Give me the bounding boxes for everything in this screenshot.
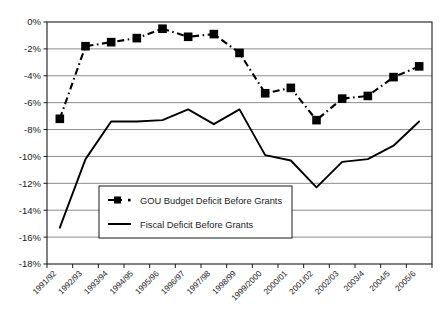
- data-point-marker: [107, 38, 116, 47]
- legend-label-fiscal-deficit: Fiscal Deficit Before Grants: [140, 220, 253, 230]
- y-axis-tick-label: -4%: [24, 70, 41, 81]
- y-axis-tick-label: -18%: [19, 258, 42, 269]
- dashed-square-marker-dot: [128, 199, 131, 202]
- y-axis-tick-label: -16%: [19, 232, 42, 243]
- y-axis-tick-label: -10%: [19, 151, 42, 162]
- data-point-marker: [389, 73, 398, 82]
- data-point-marker: [56, 115, 65, 124]
- legend-background: [99, 186, 292, 238]
- chart-figure: 0%-2%-4%-6%-8%-10%-12%-14%-16%-18% 1991/…: [0, 0, 446, 317]
- data-point-marker: [133, 34, 142, 43]
- chart-legend: GOU Budget Deficit Before Grants Fiscal …: [99, 186, 292, 238]
- data-point-marker: [184, 32, 193, 41]
- data-point-marker: [338, 94, 347, 103]
- data-point-marker: [158, 24, 167, 33]
- y-axis-tick-label: -2%: [24, 43, 41, 54]
- data-point-marker: [235, 49, 244, 58]
- dashed-square-marker-square: [114, 197, 121, 204]
- y-axis-tick-label: 0%: [27, 16, 41, 27]
- y-axis-tick-label: -6%: [24, 97, 41, 108]
- y-axis-tick-label: -14%: [19, 205, 42, 216]
- y-axis-tick-label: -8%: [24, 124, 41, 135]
- data-point-marker: [261, 89, 270, 98]
- data-point-marker: [210, 30, 219, 39]
- data-point-marker: [364, 92, 373, 101]
- y-axis-tick-label: -12%: [19, 178, 42, 189]
- data-point-marker: [415, 62, 424, 71]
- line-chart: 0%-2%-4%-6%-8%-10%-12%-14%-16%-18% 1991/…: [0, 0, 446, 317]
- data-point-marker: [287, 84, 296, 93]
- legend-label-gou-budget-deficit: GOU Budget Deficit Before Grants: [140, 196, 282, 206]
- data-point-marker: [81, 42, 90, 51]
- data-point-marker: [312, 116, 321, 125]
